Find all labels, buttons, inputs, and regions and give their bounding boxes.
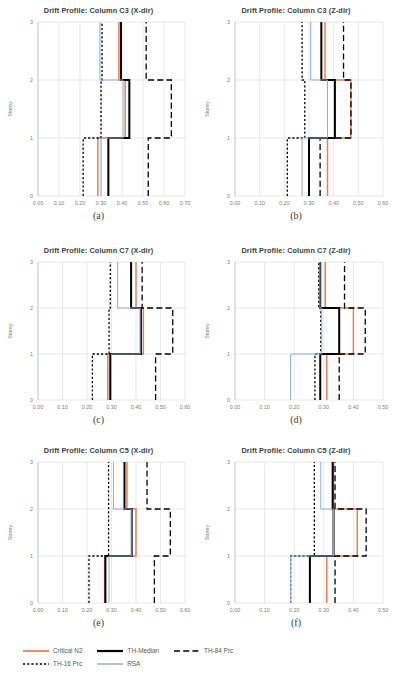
plot-area: 0.000.100.200.300.400.500123Storey — [197, 240, 395, 440]
panel-label: (c) — [0, 414, 197, 425]
chart-svg: 0.000.100.200.300.400.500.600.700123Stor… — [0, 0, 197, 240]
chart-panel-b: Drift Profile: Column C3 (Z-dir) 0.000.1… — [197, 0, 395, 240]
x-tick-label: 0.40 — [328, 200, 339, 206]
x-tick-label: 0.30 — [106, 607, 117, 613]
figure-legend: Critical N2TH-MedianTH-84 Prc TH-16 PrcR… — [0, 644, 395, 688]
x-tick-label: 0.40 — [348, 404, 359, 410]
chart-svg: 0.000.100.200.300.400.500.600123Storey — [0, 240, 197, 440]
y-tick-label: 2 — [30, 77, 33, 83]
legend-label: Critical N2 — [53, 647, 82, 654]
series-line — [310, 462, 334, 603]
legend-item-th-median: TH-Median — [96, 647, 159, 655]
x-tick-label: 0.10 — [57, 404, 68, 410]
x-tick-label: 0.00 — [33, 200, 44, 206]
x-tick-label: 0.00 — [230, 404, 241, 410]
y-axis-title: Storey — [204, 524, 210, 540]
x-tick-label: 0.50 — [155, 404, 166, 410]
chart-panel-a: Drift Profile: Column C3 (X-dir) 0.000.1… — [0, 0, 197, 240]
y-tick-label: 1 — [227, 135, 230, 141]
legend-item-critical-n2: Critical N2 — [22, 647, 82, 655]
y-tick-label: 1 — [30, 351, 33, 357]
y-tick-label: 0 — [30, 193, 33, 199]
x-tick-label: 0.10 — [259, 404, 270, 410]
x-tick-label: 0.40 — [348, 607, 359, 613]
x-tick-label: 0.00 — [230, 200, 241, 206]
y-tick-label: 0 — [227, 397, 230, 403]
plot-area: 0.000.100.200.300.400.500123Storey — [197, 440, 395, 645]
x-tick-label: 0.00 — [33, 404, 44, 410]
x-tick-label: 0.20 — [82, 404, 93, 410]
chart-panel-d: Drift Profile: Column C7 (Z-dir) 0.000.1… — [197, 240, 395, 440]
legend-row-1: Critical N2TH-MedianTH-84 Prc — [0, 644, 395, 657]
series-line — [327, 462, 357, 603]
x-tick-label: 0.30 — [304, 200, 315, 206]
y-tick-label: 2 — [30, 506, 33, 512]
series-line — [339, 262, 365, 400]
drift-profile-figure: Drift Profile: Column C3 (X-dir) 0.000.1… — [0, 0, 395, 688]
y-tick-label: 3 — [30, 459, 33, 465]
chart-panel-c: Drift Profile: Column C7 (X-dir) 0.000.1… — [0, 240, 197, 440]
panel-label: (f) — [197, 617, 395, 628]
y-tick-label: 1 — [227, 351, 230, 357]
series-line — [291, 262, 322, 400]
plot-area: 0.000.100.200.300.400.500.600.700123Stor… — [0, 0, 197, 240]
x-tick-label: 0.20 — [289, 404, 300, 410]
y-tick-label: 0 — [227, 193, 230, 199]
legend-label: RSA — [127, 660, 140, 667]
x-tick-label: 0.30 — [96, 200, 107, 206]
y-tick-label: 2 — [30, 305, 33, 311]
series-line — [108, 262, 144, 400]
x-tick-label: 0.10 — [57, 607, 68, 613]
y-tick-label: 2 — [227, 77, 230, 83]
x-tick-label: 0.60 — [180, 404, 191, 410]
series-line — [146, 22, 171, 196]
y-tick-label: 1 — [30, 553, 33, 559]
y-tick-label: 0 — [227, 600, 230, 606]
x-tick-label: 0.50 — [155, 607, 166, 613]
chart-svg: 0.000.100.200.300.400.500.600123Storey — [0, 440, 197, 645]
chart-svg: 0.000.100.200.300.400.500.600123Storey — [197, 0, 395, 240]
plot-area: 0.000.100.200.300.400.500.600123Storey — [0, 440, 197, 645]
y-axis-title: Storey — [7, 101, 13, 117]
y-tick-label: 3 — [30, 19, 33, 25]
x-tick-label: 0.30 — [106, 404, 117, 410]
legend-label: TH-Median — [127, 647, 159, 654]
x-tick-label: 0.60 — [378, 200, 389, 206]
legend-swatch-critical-n2 — [22, 647, 50, 655]
x-tick-label: 0.50 — [353, 200, 364, 206]
series-line — [142, 262, 173, 400]
x-tick-label: 0.20 — [75, 200, 86, 206]
plot-area: 0.000.100.200.300.400.500.600123Storey — [0, 240, 197, 440]
panel-label: (a) — [0, 210, 197, 221]
x-tick-label: 0.10 — [254, 200, 265, 206]
x-tick-label: 0.30 — [319, 607, 330, 613]
x-tick-label: 0.10 — [259, 607, 270, 613]
y-tick-label: 3 — [227, 19, 230, 25]
x-tick-label: 0.10 — [54, 200, 65, 206]
x-tick-label: 0.30 — [319, 404, 330, 410]
plot-area: 0.000.100.200.300.400.500.600123Storey — [197, 0, 395, 240]
x-tick-label: 0.00 — [33, 607, 44, 613]
chart-panel-e: Drift Profile: Column C5 (X-dir) 0.000.1… — [0, 440, 197, 645]
x-tick-label: 0.40 — [117, 200, 128, 206]
chart-panel-f: Drift Profile: Column C5 (Z-dir) 0.000.1… — [197, 440, 395, 645]
panel-label: (b) — [197, 210, 395, 221]
x-tick-label: 0.50 — [378, 607, 389, 613]
panel-label: (d) — [197, 414, 395, 425]
x-tick-label: 0.50 — [378, 404, 389, 410]
y-tick-label: 2 — [227, 305, 230, 311]
x-tick-label: 0.00 — [230, 607, 241, 613]
x-tick-label: 0.60 — [159, 200, 170, 206]
series-line — [302, 22, 327, 196]
chart-grid: Drift Profile: Column C3 (X-dir) 0.000.1… — [0, 0, 395, 645]
y-tick-label: 0 — [30, 397, 33, 403]
panel-label: (e) — [0, 617, 197, 628]
y-tick-label: 3 — [30, 259, 33, 265]
y-axis-title: Storey — [204, 101, 210, 117]
x-tick-label: 0.60 — [180, 607, 191, 613]
x-tick-label: 0.20 — [289, 607, 300, 613]
series-line — [109, 462, 132, 603]
legend-swatch-th-16-prc — [22, 660, 50, 668]
x-tick-label: 0.40 — [131, 404, 142, 410]
y-axis-title: Storey — [7, 524, 13, 540]
